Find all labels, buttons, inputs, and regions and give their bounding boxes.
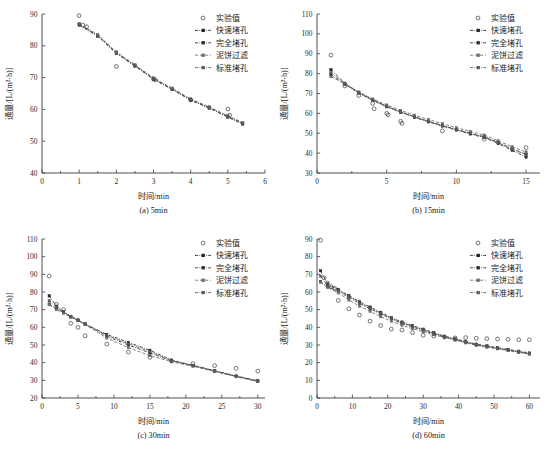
series-marker — [106, 337, 108, 339]
series-marker — [369, 307, 371, 309]
x-tick-label: 3 — [152, 177, 156, 186]
series-marker — [208, 107, 210, 109]
legend-label: 快速堵孔 — [491, 25, 523, 35]
experimental-point — [256, 369, 260, 373]
legend-a: 实验值快速堵孔完全堵孔泥饼过滤标准堵孔 — [195, 13, 248, 73]
y-tick-label: 90 — [30, 10, 38, 19]
series-marker — [115, 52, 117, 54]
series-marker — [455, 129, 457, 131]
series-marker — [511, 148, 513, 150]
experimental-point — [400, 328, 404, 332]
experimental-point — [319, 238, 323, 242]
experimental-point — [336, 299, 340, 303]
experimental-point — [372, 107, 376, 111]
legend-c: 实验值快速堵孔完全堵孔泥饼过滤标准堵孔 — [195, 238, 248, 298]
legend-marker-square — [477, 42, 479, 44]
series-marker — [465, 341, 467, 343]
series-marker — [78, 23, 80, 25]
experimental-point — [105, 342, 109, 346]
legend-label: 完全堵孔 — [216, 38, 248, 48]
y-tick-label: 40 — [305, 149, 313, 158]
y-tick-label: 70 — [305, 89, 313, 98]
legend-label: 标准堵孔 — [491, 288, 523, 298]
x-tick-label: 0 — [315, 402, 319, 411]
y-tick-label: 30 — [305, 341, 313, 350]
series-marker — [170, 359, 172, 361]
experimental-point — [371, 102, 375, 106]
series-marker — [469, 132, 471, 134]
series-marker — [84, 323, 86, 325]
series-marker — [257, 380, 259, 382]
series-marker — [330, 69, 332, 71]
experimental-point — [114, 65, 118, 69]
x-axis-title: 时间/min — [413, 191, 444, 201]
legend-marker-square — [202, 254, 204, 256]
y-tick-label: 70 — [305, 270, 313, 279]
experimental-point — [379, 324, 383, 328]
series-marker — [134, 65, 136, 67]
y-tick-label: 90 — [305, 49, 313, 58]
y-tick-label: 40 — [30, 358, 38, 367]
series-marker — [358, 305, 360, 307]
series-marker — [399, 111, 401, 113]
x-tick-label: 30 — [419, 402, 427, 411]
y-tick-label: 60 — [305, 288, 313, 297]
experimental-point — [358, 313, 362, 317]
series-marker — [496, 347, 498, 349]
legend-marker-experimental — [476, 241, 480, 245]
legend-marker-square — [202, 54, 204, 56]
experimental-point — [524, 146, 528, 150]
legend-marker-square — [477, 29, 479, 31]
legend-label: 泥饼过滤 — [491, 50, 523, 60]
legend-marker-square — [202, 279, 204, 281]
x-tick-label: 0 — [315, 177, 319, 186]
y-tick-label: 70 — [30, 73, 38, 82]
series-marker — [427, 120, 429, 122]
series-marker — [390, 317, 392, 319]
experimental-point — [485, 337, 489, 341]
series-line-c-1 — [49, 304, 258, 381]
y-tick-label: 80 — [30, 41, 38, 50]
legend-marker-square — [477, 267, 479, 269]
subplot-b: 30405060708090100110051015通量/[L/(m²·h)]时… — [275, 0, 550, 225]
plot-area-d: 01020304050607080900102030405060通量/[L/(m… — [275, 225, 550, 450]
series-marker — [127, 347, 129, 349]
legend-marker-square — [202, 29, 204, 31]
y-tick-label: 110 — [302, 10, 313, 19]
series-marker — [48, 300, 50, 302]
legend-label: 泥饼过滤 — [216, 50, 248, 60]
series-marker — [171, 88, 173, 90]
legend-marker-square — [202, 267, 204, 269]
subplot-a: 4050607080900123456通量/[L/(m²·h)]时间/min(a… — [0, 0, 275, 225]
legend-marker-experimental — [476, 16, 480, 20]
y-tick-label: 70 — [30, 305, 38, 314]
x-tick-label: 1 — [77, 177, 81, 186]
series-marker — [319, 270, 321, 272]
x-tick-label: 4 — [189, 177, 193, 186]
series-marker — [326, 286, 328, 288]
series-line-c-3 — [49, 301, 258, 381]
series-marker — [319, 275, 321, 277]
y-tick-label: 0 — [309, 394, 313, 403]
y-tick-label: 50 — [30, 137, 38, 146]
legend-label: 实验值 — [491, 238, 515, 248]
figure-container: 4050607080900123456通量/[L/(m²·h)]时间/min(a… — [0, 0, 550, 450]
series-marker — [106, 334, 108, 336]
experimental-point — [329, 53, 333, 57]
series-marker — [413, 116, 415, 118]
series-marker — [372, 99, 374, 101]
experimental-point — [126, 350, 130, 354]
series-marker — [411, 325, 413, 327]
subplot-caption-d: (d) 60min — [412, 431, 445, 440]
legend-label: 快速堵孔 — [216, 250, 248, 260]
y-tick-label: 30 — [305, 169, 313, 178]
x-tick-label: 20 — [182, 402, 190, 411]
series-line-c-2 — [49, 305, 258, 382]
series-marker — [337, 292, 339, 294]
series-marker — [190, 99, 192, 101]
y-tick-label: 60 — [305, 109, 313, 118]
experimental-point — [226, 107, 230, 111]
x-tick-label: 50 — [490, 402, 498, 411]
series-marker — [386, 105, 388, 107]
experimental-point — [464, 336, 468, 340]
